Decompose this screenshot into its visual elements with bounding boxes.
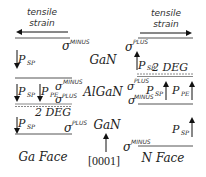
left-algan-sigma-top: σ MINUS bbox=[55, 78, 83, 93]
gan-top-label: GaN bbox=[89, 53, 117, 67]
right-top-sigma: σ PLUS bbox=[125, 38, 148, 54]
right-algan-ppe: P PE bbox=[171, 84, 192, 100]
p-subscript: SP bbox=[155, 90, 164, 97]
right-strain-label-2: strain bbox=[153, 19, 179, 29]
sigma-superscript: MINUS bbox=[63, 78, 83, 85]
right-strain-label-1: tensile bbox=[151, 8, 181, 18]
p-subscript: SP bbox=[27, 91, 36, 98]
left-algan-psp: P SP bbox=[17, 84, 36, 99]
gan-bottom-label: GaN bbox=[93, 118, 121, 132]
p-subscript: SP bbox=[27, 123, 36, 130]
sigma-superscript: MINUS bbox=[134, 93, 154, 100]
left-bottom-sigma: σ PLUS bbox=[64, 119, 87, 135]
p-label: P bbox=[17, 53, 26, 66]
sigma-superscript: PLUS bbox=[72, 119, 87, 126]
left-strain-label-2: strain bbox=[29, 18, 55, 28]
algan-label: AlGaN bbox=[82, 85, 123, 99]
diagram-svg: tensile strain σ MINUS P SP P SP P PE σ … bbox=[0, 0, 206, 177]
right-strain-group: tensile strain bbox=[140, 8, 189, 33]
p-subscript: PE bbox=[180, 90, 190, 97]
p-label: P bbox=[17, 85, 26, 98]
left-top-psp: P SP bbox=[17, 50, 36, 66]
right-2deg-label: 2 DEG bbox=[151, 61, 188, 74]
p-label: P bbox=[171, 84, 180, 97]
left-bottom-psp: P SP bbox=[17, 117, 36, 131]
left-strain-group: tensile strain bbox=[19, 7, 68, 32]
right-algan-sigma-bottom: σ MINUS bbox=[128, 93, 154, 107]
p-label: P bbox=[171, 123, 180, 136]
left-strain-label-1: tensile bbox=[27, 7, 57, 17]
p-subscript: SP bbox=[27, 59, 36, 66]
sigma-superscript: MINUS bbox=[131, 138, 151, 145]
c-axis-label: [0001] bbox=[88, 154, 120, 168]
ga-face-label: Ga Face bbox=[18, 150, 67, 164]
sigma-superscript: PLUS bbox=[62, 92, 77, 99]
p-label: P bbox=[40, 85, 49, 98]
left-top-sigma: σ MINUS bbox=[62, 38, 90, 53]
sigma-superscript: PLUS bbox=[134, 77, 149, 84]
p-label: P bbox=[137, 59, 146, 72]
left-2deg-label: 2 DEG bbox=[34, 106, 71, 119]
sigma-superscript: PLUS bbox=[133, 38, 148, 45]
p-label: P bbox=[17, 117, 26, 130]
p-subscript: SP bbox=[181, 129, 190, 136]
n-face-label: N Face bbox=[141, 151, 185, 165]
sigma-superscript: MINUS bbox=[70, 38, 90, 45]
right-bottom-psp: P SP bbox=[171, 120, 192, 137]
polarization-diagram: tensile strain σ MINUS P SP P SP P PE σ … bbox=[0, 0, 206, 177]
